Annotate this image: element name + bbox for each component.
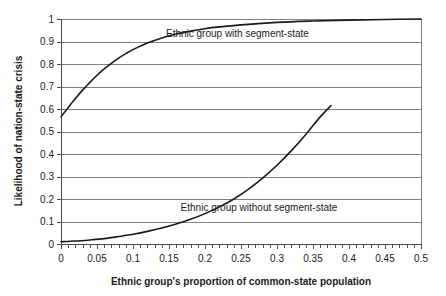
x-tick-label: 0: [58, 253, 64, 264]
x-tick-label: 0.3: [270, 253, 284, 264]
x-tick-label: 0.1: [126, 253, 140, 264]
x-tick-label: 0.45: [375, 253, 395, 264]
y-tick-label: 0.8: [40, 59, 54, 70]
y-tick-label: 0.1: [40, 216, 54, 227]
x-tick-label: 0.5: [414, 253, 428, 264]
y-axis-tick-labels: 00.10.20.30.40.50.60.70.80.91: [40, 14, 54, 250]
series-label-without-segment-state: Ethnic group without segment-state: [181, 202, 338, 213]
x-axis-title: Ethnic group's proportion of common-stat…: [111, 276, 371, 287]
likelihood-of-nation-state-crisis-chart: 00.10.20.30.40.50.60.70.80.91 00.050.10.…: [0, 0, 446, 296]
series-label-with-segment-state: Ethnic group with segment-state: [166, 28, 309, 39]
y-tick-label: 0.5: [40, 126, 54, 137]
x-tick-label: 0.15: [159, 253, 179, 264]
x-axis-tick-labels: 00.050.10.150.20.250.30.350.40.450.5: [58, 253, 428, 264]
y-tick-label: 0.6: [40, 104, 54, 115]
y-axis-ticks: [57, 20, 61, 245]
x-tick-label: 0.25: [231, 253, 251, 264]
chart-page: 00.10.20.30.40.50.60.70.80.91 00.050.10.…: [0, 0, 446, 296]
y-tick-label: 0: [48, 239, 54, 250]
y-tick-label: 1: [48, 14, 54, 25]
y-tick-label: 0.7: [40, 81, 54, 92]
y-tick-label: 0.2: [40, 194, 54, 205]
y-tick-label: 0.3: [40, 171, 54, 182]
x-tick-label: 0.2: [198, 253, 212, 264]
x-tick-label: 0.4: [342, 253, 356, 264]
x-tick-label: 0.35: [303, 253, 323, 264]
y-tick-label: 0.4: [40, 149, 54, 160]
y-tick-label: 0.9: [40, 36, 54, 47]
x-tick-label: 0.05: [87, 253, 107, 264]
y-axis-title: Likelihood of nation-state crisis: [13, 55, 24, 206]
